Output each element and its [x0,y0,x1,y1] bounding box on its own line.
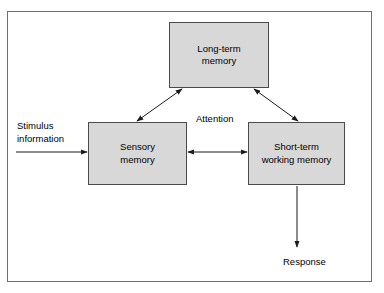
diagram-canvas: Long-term memory Sensory memory Short-te… [0,0,384,293]
node-sensory-memory[interactable]: Sensory memory [88,122,187,185]
node-sensory-memory-label: Sensory memory [118,141,157,165]
node-long-term-memory-label: Long-term memory [195,43,242,67]
label-attention: Attention [196,112,234,125]
node-short-term-working-memory[interactable]: Short-term working memory [248,122,345,185]
label-response: Response [283,255,326,268]
label-stimulus-information: Stimulus information [17,119,64,146]
node-long-term-memory[interactable]: Long-term memory [169,22,269,88]
node-short-term-working-memory-label: Short-term working memory [260,141,334,165]
connector-longterm-to-shortterm [254,89,298,121]
connector-sensory-to-longterm [137,89,182,121]
